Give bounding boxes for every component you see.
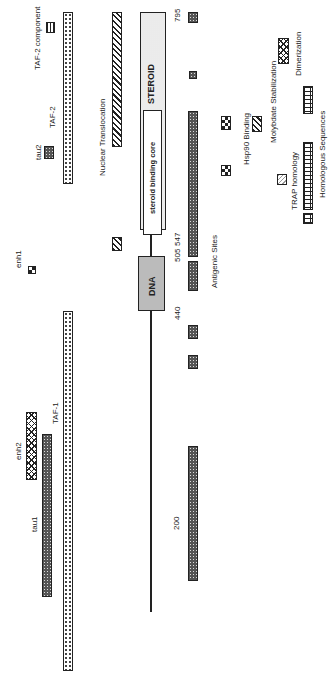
- taf2-bar: [63, 12, 73, 184]
- taf2-component-label: TAF-2 component: [33, 7, 42, 70]
- antigenic-site-2: [189, 71, 197, 79]
- taf2-label: TAF-2: [48, 106, 57, 128]
- dna-label: DNA: [147, 277, 157, 297]
- position-440: 440: [173, 307, 182, 320]
- antigenic-site-1: [188, 12, 198, 23]
- taf2-component-swatch: [46, 22, 55, 33]
- tau1-bar: [42, 434, 52, 597]
- enh1-label: enh1: [14, 250, 23, 268]
- antigenic-site-7: [188, 446, 198, 581]
- tau2-label: tau2: [34, 144, 43, 160]
- antigenic-site-5: [188, 325, 198, 339]
- antigenic-site-6: [188, 355, 198, 369]
- position-547: 547: [173, 233, 182, 246]
- position-795: 795: [173, 9, 182, 22]
- homologous-sequence-bar-3: [303, 213, 313, 224]
- steroid-label: STEROID: [146, 64, 156, 104]
- steroid-binding-core-label: steroid binding core: [148, 142, 157, 214]
- homologous-sequence-bar-2: [303, 86, 313, 114]
- nuclear-translocation-label: Nuclear Translocation: [98, 99, 107, 176]
- receptor-domain-diagram: TAF-2 component TAF-2 tau2 enh1 TAF-1 en…: [0, 0, 332, 673]
- hsp90-binding-label: Hsp90 Binding: [242, 113, 251, 165]
- enh2-label: enh2: [14, 442, 23, 460]
- nuclear-translocation-bar-2: [112, 237, 122, 251]
- trap-homology-label: TRAP homology: [290, 152, 299, 210]
- antigenic-site-4: [188, 261, 198, 291]
- trap-homology-swatch: [277, 174, 287, 185]
- hsp90-binding-swatch-2: [221, 165, 231, 176]
- position-505: 505: [173, 249, 182, 262]
- homologous-sequences-label: Homologous Sequences: [318, 111, 327, 198]
- connector-line: [150, 235, 152, 257]
- molybdate-stabilization-label: Molybdate Stabilization: [269, 61, 278, 143]
- homologous-sequence-bar: [303, 142, 313, 210]
- tau1-label: tau1: [30, 516, 39, 532]
- taf1-label: TAF-1: [51, 402, 60, 424]
- enh2-bar: [26, 412, 37, 480]
- enh1-bar: [28, 266, 36, 274]
- antigenic-site-3: [188, 111, 198, 257]
- receptor-backbone-line: [150, 300, 152, 612]
- dimerization-label: Dimerization: [294, 32, 303, 76]
- position-200: 200: [172, 517, 181, 530]
- hsp90-binding-swatch-1: [221, 116, 231, 130]
- nuclear-translocation-bar: [112, 12, 122, 147]
- taf1-bar: [63, 311, 73, 671]
- dimerization-swatch: [278, 38, 289, 64]
- antigenic-sites-label: Antigenic Sites: [210, 235, 219, 288]
- tau2-bar: [44, 146, 54, 159]
- molybdate-stabilization-swatch: [252, 116, 262, 132]
